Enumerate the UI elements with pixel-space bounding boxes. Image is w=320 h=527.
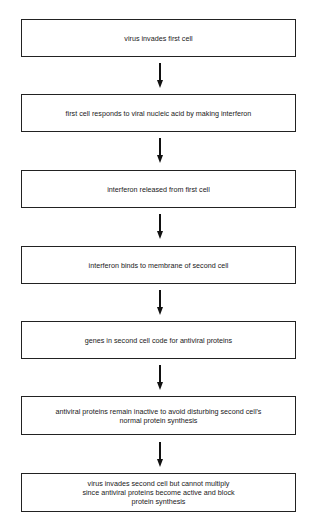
step-label: virus invades second cell but cannot mul… <box>82 479 235 506</box>
down-arrow-icon <box>157 442 163 468</box>
down-arrow-icon <box>157 63 163 89</box>
step-label: virus invades first cell <box>124 34 192 43</box>
step-label: interferon released from first cell <box>107 185 210 194</box>
step-genes-code-antiviral-proteins: genes in second cell code for antiviral … <box>21 321 296 359</box>
down-arrow-icon <box>157 214 163 240</box>
step-virus-invades-first-cell: virus invades first cell <box>21 19 296 57</box>
step-first-cell-makes-interferon: first cell responds to viral nucleic aci… <box>21 94 296 132</box>
step-antiviral-proteins-inactive: antiviral proteins remain inactive to av… <box>21 396 296 435</box>
step-virus-blocked-in-second-cell: virus invades second cell but cannot mul… <box>21 473 296 512</box>
step-label: first cell responds to viral nucleic aci… <box>66 109 252 118</box>
down-arrow-icon <box>157 138 163 164</box>
step-interferon-binds-second-cell: interferon binds to membrane of second c… <box>21 246 296 284</box>
down-arrow-icon <box>157 290 163 316</box>
step-label: antiviral proteins remain inactive to av… <box>52 407 265 425</box>
down-arrow-icon <box>157 365 163 391</box>
step-interferon-released: interferon released from first cell <box>21 170 296 208</box>
step-label: genes in second cell code for antiviral … <box>85 336 232 345</box>
step-label: interferon binds to membrane of second c… <box>89 261 229 270</box>
